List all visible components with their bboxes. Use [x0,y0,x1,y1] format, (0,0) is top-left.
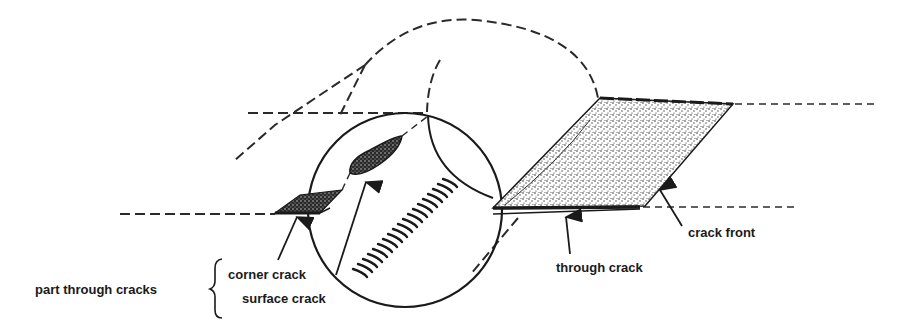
surface-crack-arrow [336,182,366,275]
label-crack-front: crack front [688,225,756,240]
label-corner-crack: corner crack [228,267,307,282]
label-surface-crack: surface crack [242,291,327,306]
label-through-crack: through crack [556,260,643,275]
through-crack-plane [493,98,733,214]
corner-crack-arrow [278,217,297,260]
crack-front-arrow [660,190,682,226]
plate-plane-lines [120,104,875,275]
cylinder-far-outline [235,20,598,160]
surface-crack-shape [350,136,402,174]
crack-diagram: part through cracks corner crack surface… [0,0,904,325]
cylinder-hatching [353,179,457,277]
through-crack-arrow [566,217,570,254]
cylinder-front-face [308,113,502,307]
label-part-through-cracks: part through cracks [35,282,157,297]
group-brace [210,259,222,318]
through-crack-curve [428,116,493,198]
